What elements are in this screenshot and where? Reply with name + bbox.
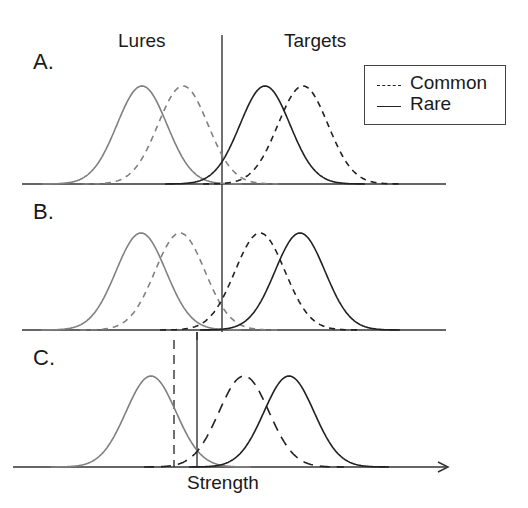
x-axis-label: Strength: [187, 472, 259, 494]
panel-b-label: B.: [33, 199, 54, 225]
legend-label-common: Common: [410, 72, 487, 94]
targets-rare-curve: [189, 376, 389, 467]
targets-column-label: Targets: [284, 30, 346, 52]
targets-rare-curve: [165, 86, 365, 184]
dashed-line-icon: [377, 85, 401, 86]
legend: Common Rare: [364, 65, 506, 125]
lures-common-curve: [80, 233, 280, 330]
solid-line-icon: [377, 106, 401, 107]
legend-label-rare: Rare: [410, 93, 451, 115]
panel-c-label: C.: [33, 345, 55, 371]
targets-rare-curve: [200, 233, 400, 330]
lures-column-label: Lures: [118, 30, 166, 52]
panel-a-label: A.: [33, 49, 54, 75]
lures-curve: [51, 376, 251, 467]
legend-item-rare: Rare: [365, 95, 505, 117]
